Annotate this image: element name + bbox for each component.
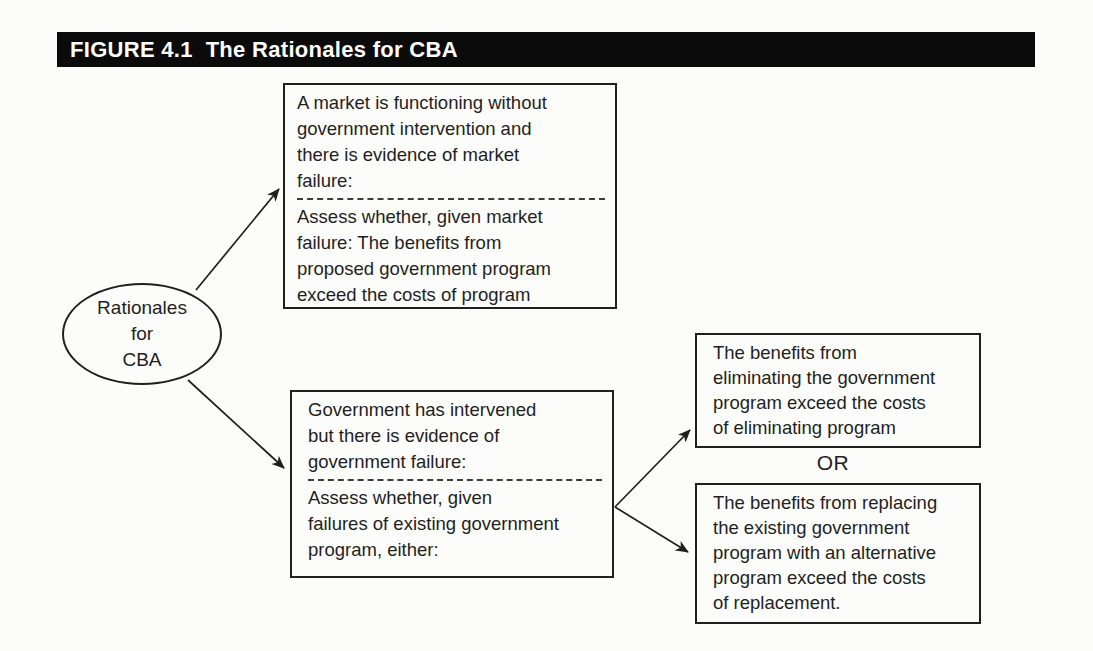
- government-failure-condition-text: Government has intervened but there is e…: [308, 397, 602, 475]
- market-failure-box: A market is functioning without governme…: [283, 83, 617, 309]
- replace-program-text: The benefits from replacing the existing…: [713, 490, 969, 615]
- government-failure-box: Government has intervened but there is e…: [290, 390, 614, 578]
- dashed-divider: [308, 479, 602, 481]
- arrow-ellipse-to-market-box: [196, 189, 279, 290]
- or-label: OR: [793, 451, 873, 475]
- figure-canvas: FIGURE 4.1 The Rationales for CBA Ration…: [0, 0, 1093, 651]
- rationales-ellipse-node: Rationales for CBA: [62, 283, 222, 385]
- arrow-ellipse-to-government-box: [188, 380, 284, 468]
- eliminate-program-box: The benefits from eliminating the govern…: [695, 333, 981, 448]
- arrow-fork-to-eliminate-box: [615, 430, 690, 507]
- eliminate-program-text: The benefits from eliminating the govern…: [713, 340, 969, 440]
- dashed-divider: [297, 198, 605, 200]
- market-failure-condition-text: A market is functioning without governme…: [297, 90, 605, 194]
- replace-program-box: The benefits from replacing the existing…: [695, 483, 981, 624]
- market-failure-assessment-text: Assess whether, given market failure: Th…: [297, 204, 605, 308]
- figure-title-banner: FIGURE 4.1 The Rationales for CBA: [57, 32, 1035, 67]
- government-failure-assessment-text: Assess whether, given failures of existi…: [308, 485, 602, 563]
- arrow-fork-to-replace-box: [615, 507, 688, 552]
